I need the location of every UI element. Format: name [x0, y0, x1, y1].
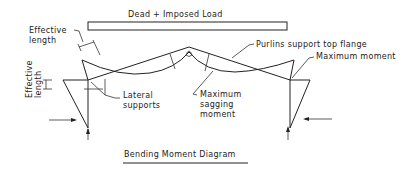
load-label: Dead + Imposed Load	[128, 10, 223, 19]
moment-curve	[63, 51, 310, 128]
max-moment-label: Maximum moment	[292, 52, 396, 78]
effective-length-side: Effective length	[25, 60, 52, 98]
svg-text:Effective: Effective	[25, 60, 34, 98]
svg-text:Effective: Effective	[29, 26, 67, 35]
svg-text:Purlins support top flange: Purlins support top flange	[256, 40, 367, 49]
bending-moment-diagram: Dead + Imposed Load Effective length Eff…	[0, 0, 412, 174]
svg-text:supports: supports	[123, 101, 160, 110]
diagram-caption: Bending Moment Diagram	[124, 150, 236, 159]
svg-text:Lateral: Lateral	[123, 91, 153, 100]
max-sagging-label: Maximum sagging moment	[193, 71, 242, 119]
svg-text:moment: moment	[200, 110, 235, 119]
load-bar	[88, 22, 287, 30]
lateral-supports: Lateral supports	[84, 79, 160, 110]
svg-text:sagging: sagging	[200, 100, 234, 109]
svg-text:length: length	[34, 71, 43, 98]
portal-frame	[88, 47, 290, 128]
svg-text:Maximum moment: Maximum moment	[316, 52, 396, 61]
svg-text:length: length	[29, 36, 56, 45]
svg-text:Maximum: Maximum	[200, 90, 242, 99]
